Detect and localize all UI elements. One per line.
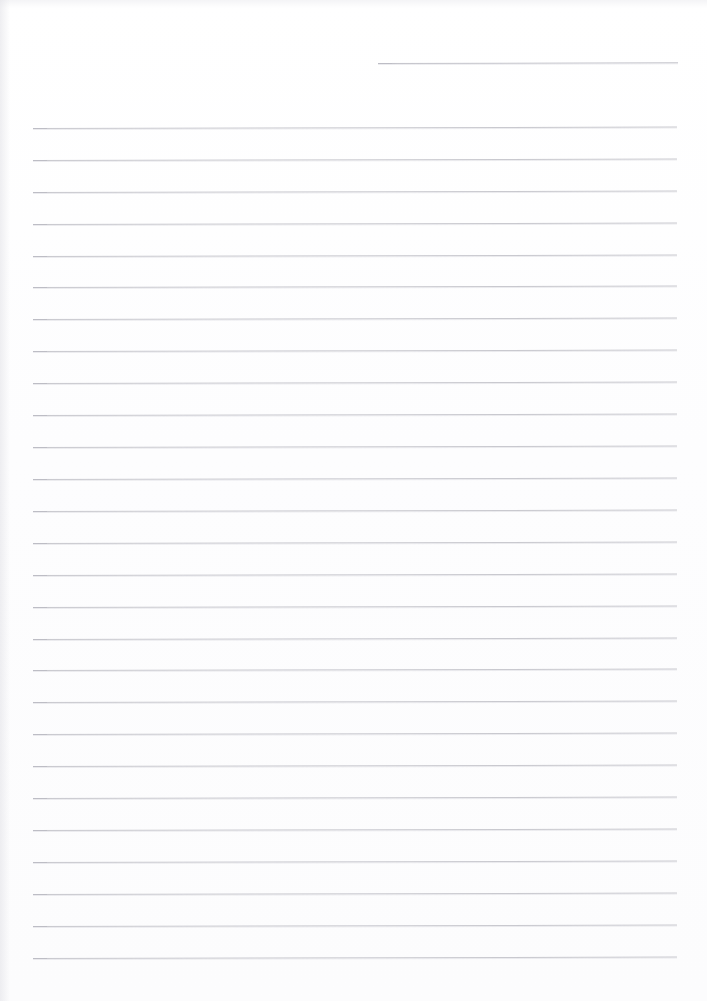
- writing-rule-line: [33, 542, 677, 544]
- writing-rule-line: [33, 669, 677, 671]
- top-edge-shadow: [0, 0, 707, 8]
- writing-rule-line: [33, 318, 677, 320]
- writing-rule-line: [33, 606, 677, 608]
- writing-rule-line: [33, 446, 677, 448]
- writing-rule-line: [33, 638, 677, 640]
- writing-rule-line: [33, 191, 677, 193]
- writing-rule-line: [33, 574, 677, 576]
- scanned-page: [0, 0, 707, 1001]
- header-date-rule: [378, 62, 678, 64]
- left-edge-shadow: [0, 0, 10, 1001]
- writing-rule-line: [33, 478, 677, 480]
- writing-rule-line: [33, 382, 677, 384]
- writing-rule-line: [33, 829, 677, 831]
- paper-surface: [0, 0, 707, 1001]
- writing-rule-line: [33, 733, 677, 735]
- writing-rule-line: [33, 765, 677, 767]
- writing-rule-line: [33, 957, 677, 959]
- writing-rule-line: [33, 350, 677, 352]
- writing-rule-line: [33, 797, 677, 799]
- writing-rule-line: [33, 223, 677, 225]
- writing-rule-line: [33, 286, 677, 288]
- writing-rule-line: [33, 510, 677, 512]
- writing-rule-line: [33, 925, 677, 927]
- writing-rule-line: [33, 255, 677, 257]
- writing-rule-line: [33, 127, 677, 129]
- writing-rule-line: [33, 414, 677, 416]
- writing-rule-line: [33, 893, 677, 895]
- writing-rule-line: [33, 861, 677, 863]
- writing-rule-line: [33, 701, 677, 703]
- writing-rule-line: [33, 159, 677, 161]
